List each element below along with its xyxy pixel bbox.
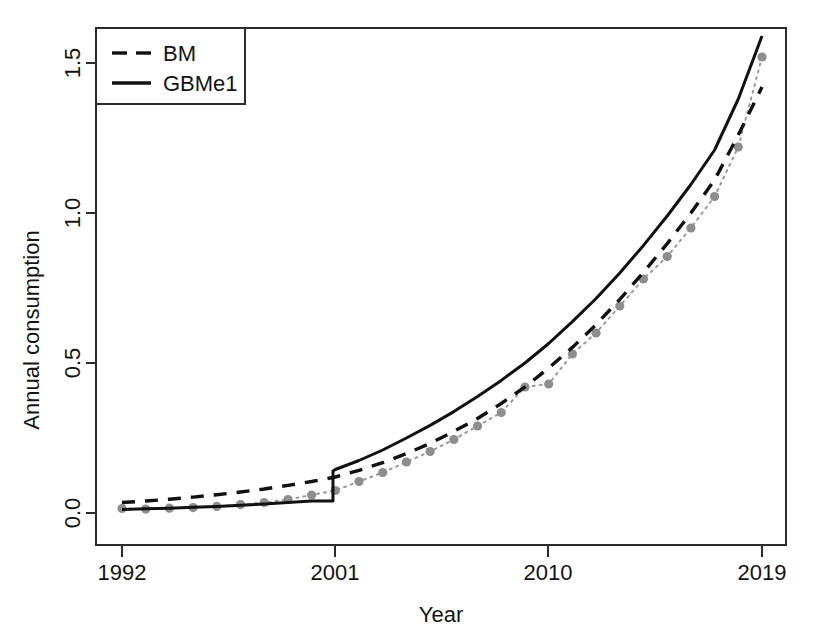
plot-frame xyxy=(96,28,786,545)
data-series-group xyxy=(117,36,766,514)
x-tick-label-0: 1992 xyxy=(98,560,147,585)
data-point xyxy=(307,490,316,499)
legend-label-bm: BM xyxy=(163,41,196,66)
y-tick-label-0: 0.0 xyxy=(60,498,85,529)
chart-plot-area: 0.0 0.5 1.0 1.5 Annual consumption 1992 … xyxy=(0,0,819,641)
chart-figure: 0.0 0.5 1.0 1.5 Annual consumption 1992 … xyxy=(0,0,819,641)
x-axis-title: Year xyxy=(419,602,463,627)
data-point xyxy=(449,435,458,444)
series-bm-line xyxy=(122,87,762,503)
series-observed-line xyxy=(122,57,762,509)
data-point xyxy=(378,468,387,477)
data-point xyxy=(497,408,506,417)
data-point xyxy=(615,301,624,310)
data-point xyxy=(402,457,411,466)
data-point xyxy=(734,142,743,151)
x-tick-label-3: 2019 xyxy=(738,560,787,585)
data-point xyxy=(426,447,435,456)
y-axis-ticks xyxy=(86,63,96,513)
data-point xyxy=(544,379,553,388)
data-point xyxy=(757,52,766,61)
y-tick-label-2: 1.0 xyxy=(60,198,85,229)
data-point xyxy=(354,477,363,486)
data-point xyxy=(710,192,719,201)
legend: BM GBMe1 xyxy=(96,28,245,104)
data-point xyxy=(473,421,482,430)
y-axis-title: Annual consumption xyxy=(19,230,44,429)
data-point xyxy=(663,252,672,261)
data-point xyxy=(686,223,695,232)
x-tick-label-1: 2001 xyxy=(311,560,360,585)
y-tick-label-1: 0.5 xyxy=(60,348,85,379)
x-axis-ticks xyxy=(122,545,762,557)
y-tick-label-3: 1.5 xyxy=(60,48,85,79)
x-axis-tick-labels: 1992 2001 2010 2019 xyxy=(98,560,787,585)
x-tick-label-2: 2010 xyxy=(524,560,573,585)
legend-label-gbme1: GBMe1 xyxy=(163,71,238,96)
y-axis-tick-labels: 0.0 0.5 1.0 1.5 xyxy=(60,48,85,529)
